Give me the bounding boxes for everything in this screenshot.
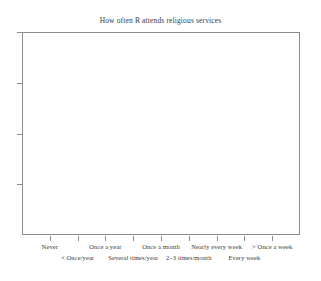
x-axis-label: Once a month — [142, 243, 180, 250]
plot-frame — [22, 32, 300, 235]
x-axis-tick — [161, 236, 162, 241]
y-axis-tick — [17, 134, 22, 135]
x-axis-tick — [272, 236, 273, 241]
x-axis-label: Nearly every week — [191, 243, 242, 250]
x-axis-label: Every week — [228, 254, 260, 261]
x-axis-tick — [244, 236, 245, 241]
chart-title: How often R attends religious services — [0, 16, 321, 25]
x-axis-label: Never — [42, 243, 58, 250]
x-axis-label: 2–3 times/month — [166, 254, 211, 261]
x-axis-tick — [105, 236, 106, 241]
y-axis-tick — [17, 32, 22, 33]
figure-canvas: How often R attends religious services N… — [0, 0, 321, 281]
x-axis-tick — [189, 236, 190, 241]
x-axis-label: Once a year — [89, 243, 121, 250]
y-axis-tick — [17, 83, 22, 84]
x-axis-label: > Once a week — [252, 243, 292, 250]
x-axis-label: Several times/year — [108, 254, 158, 261]
x-axis-tick — [133, 236, 134, 241]
y-axis-tick — [17, 184, 22, 185]
x-axis-tick — [217, 236, 218, 241]
plot-area — [23, 33, 299, 234]
x-axis-tick — [78, 236, 79, 241]
x-axis-label: < Once/year — [61, 254, 94, 261]
x-axis-tick — [50, 236, 51, 241]
